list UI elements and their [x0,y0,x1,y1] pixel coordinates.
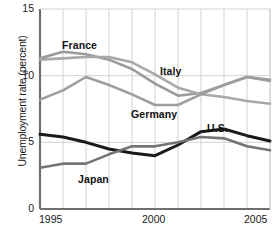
x-tick-label: 2005 [244,213,267,225]
series-label-italy: Italy [160,65,182,77]
series-label-japan: Japan [78,173,109,185]
y-tick-label: 5 [10,135,34,147]
y-tick-label: 15 [10,2,34,14]
unemployment-rate-line-chart: Unemployment rate (percent) 051015 19952… [0,0,277,236]
y-tick-label: 0 [10,202,34,214]
series-label-us: U.S. [207,122,228,134]
series-label-germany: Germany [131,108,177,120]
x-tick-label: 2000 [142,213,165,225]
y-tick-label: 10 [10,69,34,81]
x-tick-label: 1995 [39,213,62,225]
series-label-france: France [62,39,97,51]
